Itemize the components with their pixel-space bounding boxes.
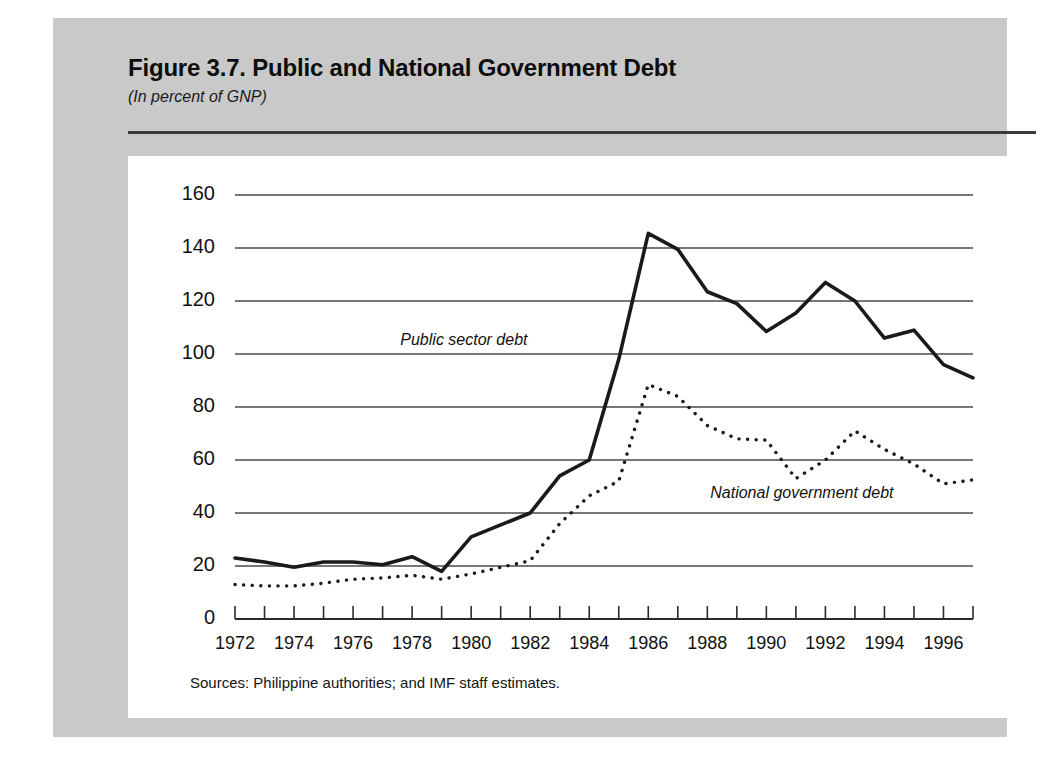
y-axis-tick-label: 100 (163, 341, 215, 364)
x-axis-tick-label: 1980 (441, 633, 501, 654)
x-axis-tick-label: 1988 (677, 633, 737, 654)
y-axis-tick-label: 160 (163, 182, 215, 205)
series-line-public-sector (235, 233, 973, 571)
y-axis-tick-label: 60 (163, 447, 215, 470)
series-label-national-government: National government debt (710, 484, 893, 502)
chart-plot-area: 0204060801001201401601972197419761978198… (128, 156, 1035, 718)
y-axis-tick-label: 40 (163, 500, 215, 523)
x-axis-tick-label: 1996 (913, 633, 973, 654)
figure-subtitle: (In percent of GNP) (128, 88, 988, 106)
figure-title: Figure 3.7. Public and National Governme… (128, 54, 988, 82)
x-axis-tick-label: 1978 (382, 633, 442, 654)
sources-note: Sources: Philippine authorities; and IMF… (190, 674, 560, 691)
y-axis-tick-label: 20 (163, 553, 215, 576)
y-axis-tick-label: 140 (163, 235, 215, 258)
figure-root: Figure 3.7. Public and National Governme… (0, 0, 1055, 778)
x-axis-tick-label: 1986 (618, 633, 678, 654)
y-axis-tick-label: 80 (163, 394, 215, 417)
x-axis-tick-label: 1984 (559, 633, 619, 654)
y-axis-tick-label: 120 (163, 288, 215, 311)
series-label-public-sector: Public sector debt (400, 331, 527, 349)
chart-card: 0204060801001201401601972197419761978198… (128, 156, 1035, 718)
figure-panel: Figure 3.7. Public and National Governme… (53, 18, 1007, 737)
x-axis-tick-label: 1976 (323, 633, 383, 654)
x-axis-tick-label: 1994 (854, 633, 914, 654)
x-axis-tick-label: 1982 (500, 633, 560, 654)
x-axis-tick-label: 1972 (205, 633, 265, 654)
x-axis-tick-label: 1990 (736, 633, 796, 654)
x-axis-tick-label: 1992 (795, 633, 855, 654)
x-axis-tick-label: 1974 (264, 633, 324, 654)
title-divider (128, 131, 1036, 134)
y-axis-tick-label: 0 (163, 606, 215, 629)
